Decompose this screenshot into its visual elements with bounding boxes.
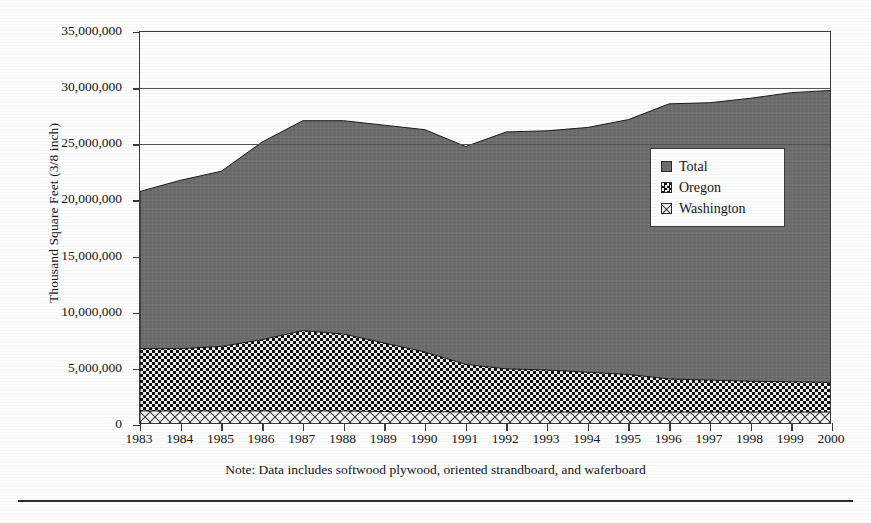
x-tick-mark: [466, 423, 467, 431]
crosshatch-swatch-icon: [661, 203, 672, 214]
gridline: [140, 144, 830, 145]
y-tick-label: 10,000,000: [18, 305, 122, 319]
x-tick-label: 1983: [126, 432, 153, 446]
x-tick-mark: [832, 423, 833, 431]
x-tick-label: 1985: [207, 432, 234, 446]
chart-figure: Thousand Square Feet (3/8 inch) 35,000,0…: [0, 0, 871, 523]
x-tick-label: 1987: [288, 432, 315, 446]
y-tick-mark: [133, 144, 140, 145]
y-tick-mark: [133, 32, 140, 33]
y-tick-mark: [133, 200, 140, 201]
x-tick-label: 1990: [410, 432, 437, 446]
legend-label-oregon: Oregon: [679, 180, 721, 196]
x-tick-label: 1986: [248, 432, 275, 446]
x-tick-mark: [588, 423, 589, 431]
x-tick-label: 1999: [777, 432, 804, 446]
area-series-washington: [140, 411, 830, 423]
y-tick-label: 25,000,000: [18, 136, 122, 150]
x-tick-label: 1991: [451, 432, 478, 446]
x-tick-mark: [181, 423, 182, 431]
x-tick-mark: [791, 423, 792, 431]
x-tick-label: 1996: [655, 432, 682, 446]
y-axis-tick-labels: 35,000,00030,000,00025,000,00020,000,000…: [18, 0, 122, 523]
gridline: [140, 88, 830, 89]
x-tick-mark: [344, 423, 345, 431]
x-tick-label: 1995: [614, 432, 641, 446]
x-axis-tick-labels: 1983198419851986198719881989199019911992…: [139, 432, 831, 454]
chart-note: Note: Data includes softwood plywood, or…: [0, 462, 871, 478]
x-tick-label: 1993: [533, 432, 560, 446]
x-tick-mark: [425, 423, 426, 431]
footer-divider: [18, 500, 853, 502]
y-tick-mark: [133, 257, 140, 258]
x-tick-label: 1989: [370, 432, 397, 446]
y-tick-label: 0: [18, 417, 122, 431]
y-tick-mark: [133, 369, 140, 370]
y-tick-label: 30,000,000: [18, 80, 122, 94]
x-tick-label: 1984: [166, 432, 193, 446]
x-tick-label: 1998: [736, 432, 763, 446]
x-tick-mark: [628, 423, 629, 431]
x-tick-label: 1997: [695, 432, 722, 446]
legend-label-washington: Washington: [679, 201, 746, 217]
x-tick-mark: [140, 423, 141, 431]
x-tick-label: 1994: [573, 432, 600, 446]
y-tick-label: 5,000,000: [18, 361, 122, 375]
x-tick-mark: [221, 423, 222, 431]
x-tick-mark: [710, 423, 711, 431]
y-tick-mark: [133, 313, 140, 314]
legend-label-total: Total: [679, 159, 708, 175]
legend-item-total[interactable]: Total: [661, 156, 776, 177]
y-tick-label: 35,000,000: [18, 24, 122, 38]
x-tick-mark: [669, 423, 670, 431]
y-tick-label: 15,000,000: [18, 249, 122, 263]
solid-gray-swatch-icon: [661, 161, 672, 172]
x-tick-mark: [262, 423, 263, 431]
checkerboard-swatch-icon: [661, 182, 672, 193]
y-tick-mark: [133, 425, 140, 426]
area-chart-svg: [140, 32, 830, 423]
legend-item-oregon[interactable]: Oregon: [661, 177, 776, 198]
x-tick-mark: [384, 423, 385, 431]
plot-inner: [140, 32, 830, 423]
x-tick-mark: [751, 423, 752, 431]
x-tick-label: 2000: [818, 432, 845, 446]
x-tick-label: 1992: [492, 432, 519, 446]
x-tick-mark: [303, 423, 304, 431]
chart-legend: Total Oregon Washington: [650, 148, 785, 227]
x-tick-label: 1988: [329, 432, 356, 446]
x-tick-mark: [547, 423, 548, 431]
x-tick-mark: [506, 423, 507, 431]
legend-item-washington[interactable]: Washington: [661, 198, 776, 219]
y-tick-mark: [133, 88, 140, 89]
plot-area: [139, 31, 831, 424]
y-tick-label: 20,000,000: [18, 192, 122, 206]
